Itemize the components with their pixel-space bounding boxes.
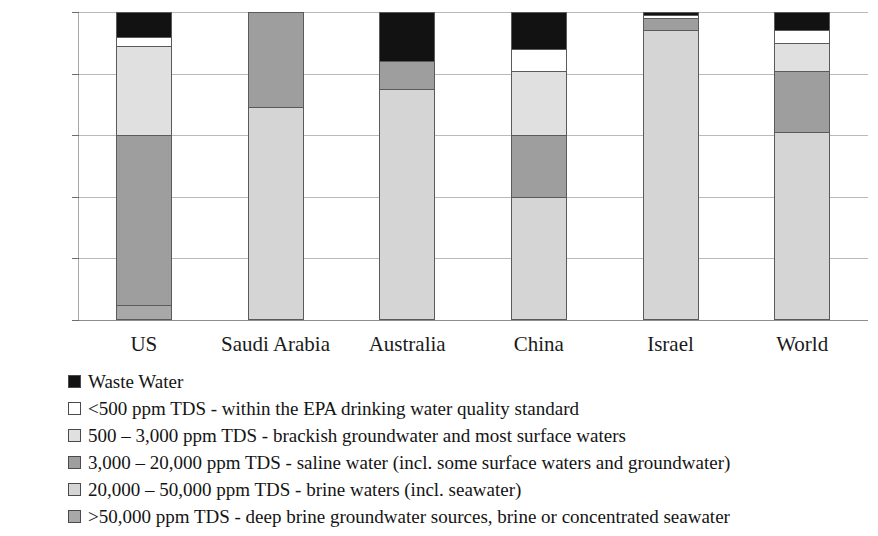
bar-world [774, 12, 830, 320]
bar-segment [643, 18, 699, 30]
x-axis-category-label: US [78, 332, 210, 356]
legend-swatch-icon [68, 483, 81, 496]
bar-australia [379, 12, 435, 320]
legend-item-label: 20,000 – 50,000 ppm TDS - brine waters (… [88, 479, 521, 500]
x-axis-category-label: World [736, 332, 868, 356]
y-axis-tick-mark [72, 12, 79, 13]
y-axis-tick-mark [72, 74, 79, 75]
bar-segment [511, 197, 567, 320]
legend-item-label: <500 ppm TDS - within the EPA drinking w… [88, 398, 579, 419]
gridline [78, 135, 868, 136]
plot-area [78, 12, 868, 320]
bar-segment [379, 61, 435, 89]
x-axis-category-label: Australia [341, 332, 473, 356]
bar-segment [511, 135, 567, 197]
bar-segment [511, 49, 567, 71]
bar-segment [379, 12, 435, 61]
gridline [78, 258, 868, 259]
bar-segment [511, 12, 567, 49]
legend-item: 20,000 – 50,000 ppm TDS - brine waters (… [68, 476, 874, 503]
legend-swatch-icon [68, 375, 81, 388]
bar-saudi-arabia [248, 12, 304, 320]
x-axis-category-label: Israel [605, 332, 737, 356]
bar-segment [248, 107, 304, 320]
legend-item-label: 3,000 – 20,000 ppm TDS - saline water (i… [88, 452, 730, 473]
bar-segment [774, 71, 830, 133]
bar-segment [116, 46, 172, 135]
x-axis-category-label: China [473, 332, 605, 356]
gridline [78, 320, 868, 321]
gridline [78, 74, 868, 75]
gridline [78, 197, 868, 198]
y-axis-tick-mark [72, 197, 79, 198]
legend-item: 500 – 3,000 ppm TDS - brackish groundwat… [68, 422, 874, 449]
legend-item: >50,000 ppm TDS - deep brine groundwater… [68, 503, 874, 530]
legend-item-label: 500 – 3,000 ppm TDS - brackish groundwat… [88, 425, 626, 446]
legend-swatch-icon [68, 429, 81, 442]
bar-china [511, 12, 567, 320]
bar-segment [774, 132, 830, 320]
bar-segment [643, 15, 699, 18]
x-axis-category-label: Saudi Arabia [210, 332, 342, 356]
legend-swatch-icon [68, 510, 81, 523]
bar-segment [379, 89, 435, 320]
y-axis-tick-mark [72, 135, 79, 136]
legend-item-label: >50,000 ppm TDS - deep brine groundwater… [88, 506, 730, 527]
bar-israel [643, 12, 699, 320]
legend-item-label: Waste Water [88, 371, 183, 392]
bar-segment [774, 43, 830, 71]
stacked-bar-chart-figure: 0%20%40%60%80%100% USSaudi ArabiaAustral… [0, 0, 878, 536]
bar-segment [511, 71, 567, 136]
gridline [78, 12, 868, 13]
bar-segment [248, 12, 304, 107]
y-axis-line [78, 12, 79, 320]
legend-swatch-icon [68, 402, 81, 415]
bar-segment [643, 30, 699, 320]
bar-segment [116, 135, 172, 304]
bar-segment [116, 37, 172, 46]
legend-item: <500 ppm TDS - within the EPA drinking w… [68, 395, 874, 422]
bar-segment [643, 12, 699, 15]
bar-us [116, 12, 172, 320]
bar-segment [116, 305, 172, 320]
chart-legend: Waste Water<500 ppm TDS - within the EPA… [68, 368, 874, 530]
y-axis-tick-mark [72, 320, 79, 321]
bar-segment [116, 12, 172, 37]
bar-segment [774, 30, 830, 42]
y-axis-tick-mark [72, 258, 79, 259]
legend-item: 3,000 – 20,000 ppm TDS - saline water (i… [68, 449, 874, 476]
legend-swatch-icon [68, 456, 81, 469]
bar-segment [774, 12, 830, 30]
legend-item: Waste Water [68, 368, 874, 395]
